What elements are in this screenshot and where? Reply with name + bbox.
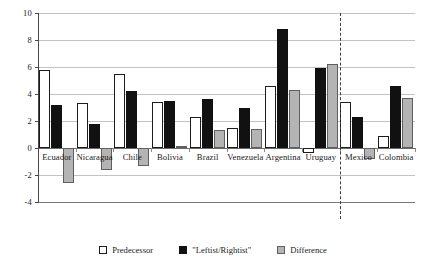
legend-label: Predecessor xyxy=(112,245,153,255)
bar-leftist xyxy=(277,29,288,148)
legend-label: Difference xyxy=(290,245,327,255)
bar-group xyxy=(340,13,378,202)
gridline--4 xyxy=(38,202,415,203)
bar-group xyxy=(227,13,265,202)
bar-groups xyxy=(38,13,415,202)
y-tick-mark xyxy=(35,13,39,14)
bar-predecessor xyxy=(152,102,163,148)
y-tick-label: 10 xyxy=(23,9,32,18)
x-axis-label-colombia: Colombia xyxy=(377,149,415,165)
bar-group xyxy=(189,13,227,202)
legend-swatch-icon xyxy=(99,246,107,254)
bar-predecessor xyxy=(190,117,201,148)
bar-leftist xyxy=(126,91,137,148)
y-tick-mark xyxy=(35,121,39,122)
y-tick-label: -2 xyxy=(25,171,32,180)
chart-legend: Predecessor"Leftist/Rightist"Difference xyxy=(0,245,426,255)
x-axis-label-argentina: Argentina xyxy=(264,149,302,165)
x-axis-label-brazil: Brazil xyxy=(189,149,227,165)
y-tick-mark xyxy=(35,175,39,176)
bar-difference xyxy=(402,98,413,148)
bar-leftist xyxy=(390,86,401,148)
y-tick-label: 6 xyxy=(28,63,32,72)
y-tick-mark xyxy=(35,40,39,41)
bar-leftist xyxy=(164,101,175,148)
y-tick-mark xyxy=(35,202,39,203)
y-tick-label: -4 xyxy=(25,198,32,207)
bar-difference xyxy=(176,146,187,148)
legend-swatch-icon xyxy=(179,246,187,254)
y-tick-mark xyxy=(35,94,39,95)
y-tick-label: 4 xyxy=(28,90,32,99)
bar-predecessor xyxy=(114,74,125,148)
y-tick-label: 8 xyxy=(28,36,32,45)
bar-group xyxy=(76,13,114,202)
bar-difference xyxy=(251,129,262,148)
bar-predecessor xyxy=(227,128,238,148)
bar-predecessor xyxy=(340,102,351,148)
y-tick-label: 0 xyxy=(28,144,32,153)
y-tick-label: 2 xyxy=(28,117,32,126)
y-tick-mark xyxy=(35,67,39,68)
x-axis-label-chile: Chile xyxy=(113,149,151,165)
bar-group xyxy=(302,13,340,202)
x-axis-label-uruguay: Uruguay xyxy=(302,149,340,165)
bar-group xyxy=(38,13,76,202)
group-divider-line xyxy=(340,13,341,219)
bar-group xyxy=(264,13,302,202)
bar-group xyxy=(377,13,415,202)
bar-leftist xyxy=(202,99,213,148)
legend-item-difference[interactable]: Difference xyxy=(277,245,327,255)
legend-item-leftist[interactable]: "Leftist/Rightist" xyxy=(179,245,251,255)
bar-leftist xyxy=(352,117,363,148)
x-axis-label-nicaragua: Nicaragua xyxy=(76,149,114,165)
bar-group xyxy=(113,13,151,202)
bar-predecessor xyxy=(378,136,389,148)
legend-swatch-icon xyxy=(277,246,285,254)
x-axis-label-venezuela: Venezuela xyxy=(227,149,265,165)
x-tick-mark xyxy=(415,148,416,152)
x-axis-category-labels: EcuadorNicaraguaChileBoliviaBrazilVenezu… xyxy=(38,149,415,165)
bar-predecessor xyxy=(39,70,50,148)
bar-leftist xyxy=(239,108,250,149)
bar-difference xyxy=(289,90,300,148)
x-axis-label-bolivia: Bolivia xyxy=(151,149,189,165)
bar-leftist xyxy=(89,124,100,148)
bar-difference xyxy=(214,130,225,148)
bar-leftist xyxy=(315,68,326,148)
bar-difference xyxy=(327,64,338,148)
bar-leftist xyxy=(51,105,62,148)
bar-predecessor xyxy=(77,103,88,148)
x-axis-label-ecuador: Ecuador xyxy=(38,149,76,165)
x-axis-label-mexico: Mexico xyxy=(340,149,378,165)
legend-item-predecessor[interactable]: Predecessor xyxy=(99,245,153,255)
bar-chart: 1086420-2-4 EcuadorNicaraguaChileBolivia… xyxy=(0,0,426,279)
legend-label: "Leftist/Rightist" xyxy=(192,245,251,255)
plot-area xyxy=(38,13,415,202)
bar-group xyxy=(151,13,189,202)
bar-predecessor xyxy=(265,86,276,148)
